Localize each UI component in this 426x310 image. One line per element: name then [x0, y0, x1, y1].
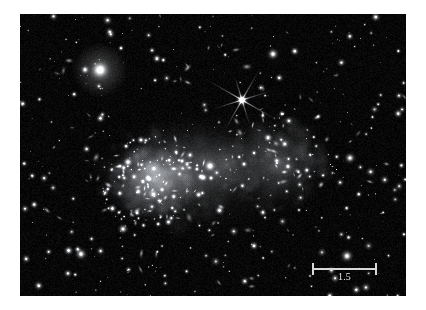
scale-bar-line: [312, 268, 377, 270]
sky-image-frame: 1.5: [20, 14, 406, 296]
scale-bar-label: 1.5: [312, 271, 377, 283]
sky-star-field-canvas: [20, 14, 406, 296]
figure-root: 1.5: [0, 0, 426, 310]
scale-bar: 1.5: [312, 256, 382, 286]
